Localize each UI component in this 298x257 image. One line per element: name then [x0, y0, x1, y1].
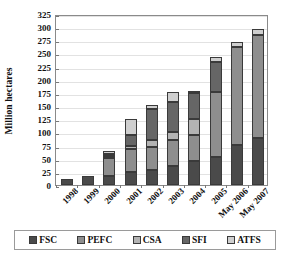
legend-label: PEFC [87, 235, 112, 245]
y-tick-label: 125 [38, 115, 52, 125]
legend-item-csa[interactable]: CSA [133, 235, 162, 245]
legend-item-pefc[interactable]: PEFC [77, 235, 112, 245]
legend-label: CSA [143, 235, 162, 245]
bar-segment-csa[interactable] [103, 156, 115, 158]
bar-segment-atfs[interactable] [188, 91, 200, 93]
legend-label: SFI [192, 235, 207, 245]
y-axis-tick-labels: 0255075100125150175200225250275300325 [16, 15, 54, 186]
bar-segment-csa[interactable] [146, 140, 158, 147]
bar-segment-fsc[interactable] [167, 166, 179, 185]
y-tick-label: 250 [38, 49, 52, 59]
bar-segment-sfi[interactable] [103, 154, 115, 156]
bar-segment-fsc[interactable] [103, 176, 115, 185]
bar-segment-sfi[interactable] [188, 93, 200, 118]
bar-segment-csa[interactable] [167, 132, 179, 140]
legend-swatch-icon [227, 236, 235, 244]
x-tick-label: 2000 [103, 186, 123, 206]
bar-segment-pefc[interactable] [231, 47, 243, 144]
plot-area [55, 15, 268, 186]
bar-segment-fsc[interactable] [210, 157, 222, 185]
y-tick-label: 100 [38, 128, 52, 138]
y-tick-label: 150 [38, 102, 52, 112]
bar-segment-atfs[interactable] [146, 105, 158, 109]
y-tick-label: 300 [38, 23, 52, 33]
bar-segment-pefc[interactable] [252, 35, 264, 138]
bar-segment-pefc[interactable] [167, 140, 179, 166]
y-tick-label: 200 [38, 76, 52, 86]
y-axis-title-text: Million hectares [4, 67, 14, 134]
y-tick-label: 75 [42, 142, 51, 152]
bar-segment-fsc[interactable] [231, 145, 243, 186]
y-tick-label: 325 [38, 10, 52, 20]
bar-segment-fsc[interactable] [188, 161, 200, 185]
x-tick-label: 2004 [188, 186, 208, 206]
legend-item-fsc[interactable]: FSC [29, 235, 57, 245]
bar-segment-pefc[interactable] [146, 147, 158, 170]
legend-swatch-icon [77, 236, 85, 244]
x-tick-label: 1998 [60, 186, 80, 206]
bar-segment-pefc[interactable] [210, 92, 222, 157]
legend-swatch-icon [182, 236, 190, 244]
x-axis-tick-labels: 19981999200020012002200320042005May 2006… [55, 186, 268, 230]
bar-segment-sfi[interactable] [125, 135, 137, 146]
bar-segment-atfs[interactable] [252, 29, 264, 34]
bar-segment-fsc[interactable] [61, 179, 73, 185]
bar-segment-fsc[interactable] [146, 170, 158, 185]
bar-segment-fsc[interactable] [252, 138, 264, 185]
legend-item-atfs[interactable]: ATFS [227, 235, 261, 245]
y-tick-label: 275 [38, 36, 52, 46]
y-tick-label: 175 [38, 89, 52, 99]
y-tick-label: 225 [38, 63, 52, 73]
bar-segment-csa[interactable] [188, 119, 200, 135]
legend-swatch-icon [133, 236, 141, 244]
bar-segment-sfi[interactable] [210, 62, 222, 92]
bar-segment-atfs[interactable] [231, 42, 243, 47]
x-tick-label: 2002 [145, 186, 165, 206]
x-tick-label: 2003 [166, 186, 186, 206]
y-tick-label: 50 [42, 155, 51, 165]
bar-segment-fsc[interactable] [82, 176, 94, 185]
legend-item-sfi[interactable]: SFI [182, 235, 207, 245]
bar-segment-atfs[interactable] [103, 151, 115, 154]
legend-swatch-icon [29, 236, 37, 244]
bar-segment-sfi[interactable] [167, 102, 179, 132]
bar-segment-pefc[interactable] [188, 135, 200, 162]
bar-segment-pefc[interactable] [125, 149, 137, 172]
bar-segment-atfs[interactable] [125, 119, 137, 135]
bar-segment-sfi[interactable] [146, 109, 158, 140]
bar-segment-fsc[interactable] [125, 172, 137, 185]
legend-label: ATFS [237, 235, 261, 245]
chart-legend: FSCPEFCCSASFIATFS [14, 230, 276, 250]
chart-figure: Million hectares 02550751001251501752002… [0, 0, 298, 257]
bar-segment-pefc[interactable] [103, 158, 115, 175]
y-tick-label: 0 [47, 181, 52, 191]
bar-segment-csa[interactable] [125, 146, 137, 149]
y-axis-title: Million hectares [2, 15, 16, 186]
bar-series-container [56, 16, 267, 185]
y-tick-label: 25 [42, 168, 51, 178]
bar-segment-atfs[interactable] [167, 92, 179, 103]
legend-label: FSC [39, 235, 57, 245]
bar-segment-atfs[interactable] [210, 57, 222, 62]
x-tick-label: 2001 [124, 186, 144, 206]
x-tick-label: 1999 [81, 186, 101, 206]
